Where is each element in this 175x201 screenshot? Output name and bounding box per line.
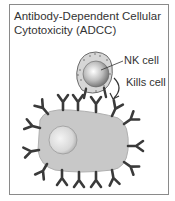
target-cell [38, 110, 128, 172]
kills-arrow-icon [110, 78, 119, 99]
kills-cell-label: Kills cell [126, 76, 166, 88]
nk-cell-label: NK cell [124, 54, 159, 66]
target-cell-nucleus [49, 126, 77, 154]
nk-nucleus [83, 61, 109, 87]
nk-cell [77, 52, 113, 98]
adcc-diagram [0, 0, 175, 201]
